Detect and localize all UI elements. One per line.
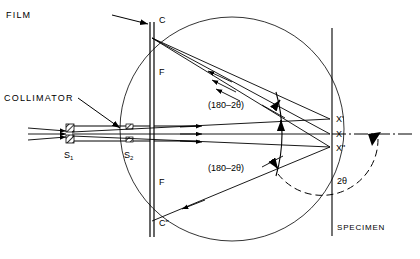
label-angle-lower: (180–2θ) [208,163,244,173]
label-film-upper: F [159,67,165,77]
label-film-lower: F [159,177,165,187]
label-film: FILM [6,10,31,20]
slit-s2-blocks [126,124,133,142]
label-specimen: SPECIMEN [337,223,385,232]
diffracted-rays-upper [152,38,330,147]
diffracted-ray-lower [152,147,330,221]
label-slit-1: S1 [64,150,74,161]
label-point-c-bottom: C" [159,218,169,228]
collimator-leader-line [78,98,120,128]
film-plane [150,22,154,237]
incident-beam [28,128,66,140]
label-collimator: COLLIMATOR [4,93,74,103]
label-x-prime: X' [336,114,344,124]
figure-canvas: FILM COLLIMATOR C C" F F S1 S2 X' X X" (… [0,0,420,259]
label-x-center: X [336,129,342,139]
label-two-theta: 2θ [337,176,347,186]
label-slit-2: S2 [124,150,134,161]
two-theta-arc [278,132,381,195]
label-point-c-top: C [159,15,166,25]
film-leader-line [112,15,148,24]
slit-s1-blocks [66,124,74,143]
label-angle-upper: (180–2θ) [208,100,244,110]
diffraction-geometry-diagram: FILM COLLIMATOR C C" F F S1 S2 X' X X" (… [0,0,420,259]
label-x-double-prime: X" [336,143,345,153]
